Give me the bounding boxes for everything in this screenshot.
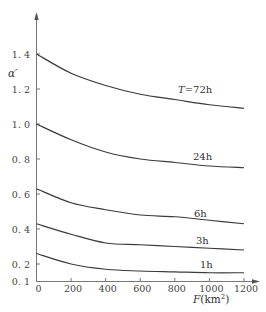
chart: 0. 10. 20. 40. 60. 81. 01. 21. 4 0200400… bbox=[0, 0, 266, 312]
curve-24h bbox=[37, 124, 245, 168]
y-axis-arrow-icon bbox=[34, 12, 38, 20]
curve-3h bbox=[37, 224, 245, 250]
curve-label: 6h bbox=[194, 208, 207, 219]
x-tick-label: 200 bbox=[64, 283, 82, 294]
x-axis-title: F(km2) bbox=[192, 293, 229, 305]
curve-labels: T=72h24h6h3h1h bbox=[178, 84, 213, 270]
y-tick-label: 1. 0 bbox=[12, 119, 30, 130]
curve-label: 24h bbox=[193, 151, 213, 162]
curve-label: 1h bbox=[200, 259, 213, 270]
x-tick-label: 800 bbox=[168, 283, 186, 294]
y-tick-label: 1. 4 bbox=[12, 49, 30, 60]
curve-1h bbox=[37, 254, 245, 273]
curve-6h bbox=[37, 189, 245, 224]
y-tick-label: 0. 4 bbox=[12, 224, 30, 235]
y-axis-title: α′ bbox=[8, 67, 18, 79]
x-tick-label: 400 bbox=[99, 283, 117, 294]
axes: 0. 10. 20. 40. 60. 81. 01. 21. 4 0200400… bbox=[12, 12, 260, 294]
curve-label: T=72h bbox=[178, 84, 213, 95]
y-tick-label: 0. 2 bbox=[12, 259, 30, 270]
y-tick-label: 0. 8 bbox=[12, 154, 30, 165]
curve-label: 3h bbox=[196, 235, 209, 246]
y-tick-label: 0. 6 bbox=[12, 189, 30, 200]
x-ticks: 020040060080010001200 bbox=[35, 278, 258, 294]
x-tick-label: 1200 bbox=[234, 283, 258, 294]
x-tick-label: 0 bbox=[35, 283, 41, 294]
curve-t72h bbox=[37, 54, 245, 108]
curves bbox=[37, 54, 245, 273]
y-ticks: 0. 10. 20. 40. 60. 81. 01. 21. 4 bbox=[12, 49, 40, 288]
y-tick-label: 0. 1 bbox=[12, 276, 30, 287]
x-tick-label: 600 bbox=[133, 283, 151, 294]
y-tick-label: 1. 2 bbox=[12, 84, 30, 95]
